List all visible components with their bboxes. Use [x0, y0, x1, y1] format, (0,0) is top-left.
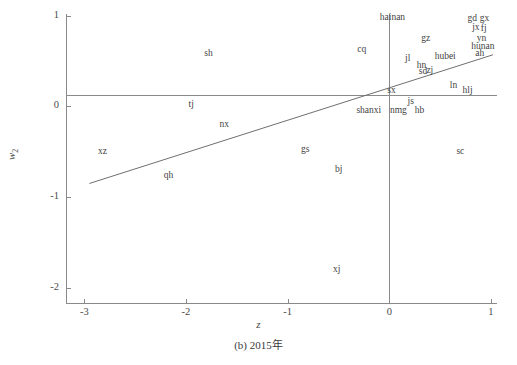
x-tick-label: -2	[173, 306, 199, 317]
x-tick-label: 1	[478, 306, 504, 317]
y-tick-label: -1	[33, 190, 59, 201]
data-point-label: js	[408, 97, 414, 107]
x-axis-line	[66, 303, 497, 304]
y-axis-label-text: w	[5, 153, 17, 160]
y-tick-label: -2	[33, 281, 59, 292]
data-point-label: sc	[456, 147, 464, 157]
data-point-label: tj	[189, 100, 194, 110]
data-point-label: cq	[357, 45, 366, 55]
data-point-label: gs	[301, 145, 309, 155]
data-point-label: ah	[475, 49, 484, 59]
data-point-label: hainan	[380, 13, 405, 23]
y-tick-mark	[66, 16, 71, 17]
data-point-label: nmg	[390, 106, 407, 116]
y-tick-mark	[66, 288, 71, 289]
data-point-label: bj	[335, 165, 342, 175]
data-point-label: ln	[450, 81, 457, 91]
x-tick-label: -3	[71, 306, 97, 317]
x-tick-label: -1	[275, 306, 301, 317]
y-tick-label: 1	[33, 9, 59, 20]
x-tick-mark	[288, 299, 289, 304]
data-point-label: hb	[415, 106, 425, 116]
y-axis-line	[66, 14, 67, 304]
data-point-label: shanxi	[356, 106, 381, 116]
x-tick-mark	[186, 299, 187, 304]
y-axis-label: w2	[5, 149, 20, 160]
vertical-reference-line	[389, 14, 390, 304]
data-point-label: jx	[472, 23, 479, 33]
data-point-label: zj	[426, 66, 433, 76]
data-point-label: hubei	[435, 52, 456, 62]
data-point-label: nx	[220, 120, 230, 130]
x-tick-mark	[84, 299, 85, 304]
data-point-label: sx	[387, 86, 395, 96]
y-tick-label: 0	[33, 99, 59, 110]
horizontal-reference-line	[66, 95, 497, 96]
data-point-label: gx	[480, 14, 490, 24]
x-tick-mark	[491, 299, 492, 304]
scatter-plot-figure: 10-1-2 -3-2-101 w2 z (b) 2015年 hainangdg…	[0, 0, 517, 365]
y-axis-label-subscript: 2	[11, 149, 20, 153]
y-tick-mark	[66, 106, 71, 107]
data-point-label: sh	[204, 49, 212, 59]
data-point-label: gz	[421, 34, 430, 44]
x-axis-label: z	[0, 318, 517, 330]
y-tick-mark	[66, 197, 71, 198]
data-point-label: xj	[333, 265, 340, 275]
x-tick-label: 0	[376, 306, 402, 317]
data-point-label: hlj	[463, 86, 473, 96]
data-point-label: qh	[164, 171, 174, 181]
figure-caption: (b) 2015年	[0, 336, 517, 352]
data-point-label: xz	[98, 147, 107, 157]
data-point-label: jl	[405, 54, 410, 64]
